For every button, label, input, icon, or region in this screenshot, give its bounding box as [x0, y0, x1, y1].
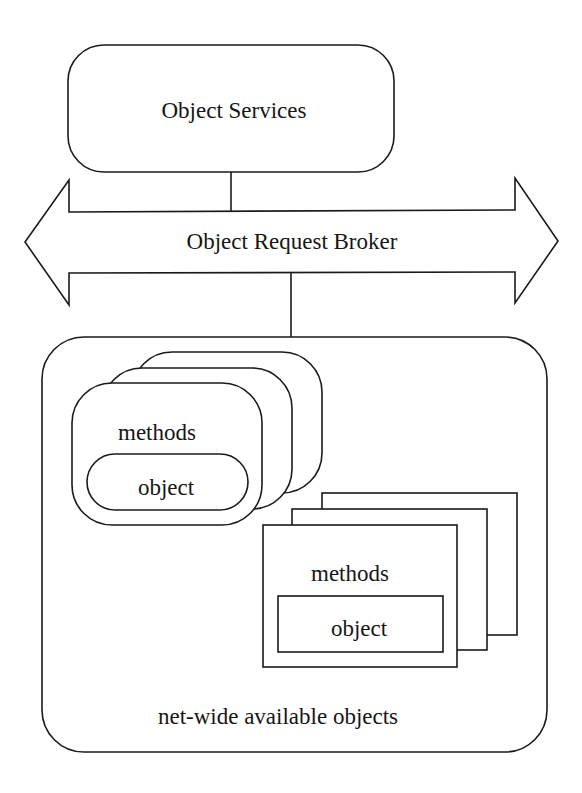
orb-label: Object Request Broker — [187, 230, 398, 253]
rect-object-label: object — [331, 617, 387, 640]
rect-object-stack — [263, 493, 517, 667]
rounded-methods-label: methods — [118, 421, 196, 444]
rounded-object-label: object — [138, 476, 194, 499]
rect-methods-label: methods — [311, 562, 389, 585]
object-services-label: Object Services — [162, 99, 307, 122]
container-label: net-wide available objects — [158, 705, 398, 728]
